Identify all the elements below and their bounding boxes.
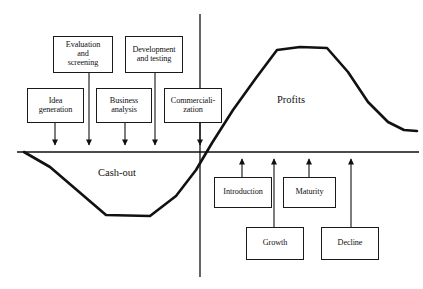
stage-box-maturity[interactable]: Maturity xyxy=(283,177,336,208)
stage-box-development-and-testing[interactable]: Development and testing xyxy=(125,36,183,73)
stage-box-label: Development and testing xyxy=(126,46,182,64)
profits-label: Profits xyxy=(277,94,305,105)
stage-box-introduction[interactable]: Introduction xyxy=(214,177,272,208)
cash-out-label: Cash-out xyxy=(98,167,136,178)
stage-box-label: Introduction xyxy=(215,188,271,197)
stage-box-label: Idea generation xyxy=(28,97,83,115)
diagram-canvas: Cash-out Profits Evaluation and screenin… xyxy=(0,0,423,289)
stage-box-label: Commerciali- zation xyxy=(165,97,221,115)
stage-box-idea-generation[interactable]: Idea generation xyxy=(27,88,84,123)
stage-box-label: Business analysis xyxy=(97,97,151,115)
stage-box-evaluation-and-screening[interactable]: Evaluation and screening xyxy=(53,36,113,73)
stage-box-label: Evaluation and screening xyxy=(54,41,112,68)
stage-box-growth[interactable]: Growth xyxy=(246,227,304,260)
stage-box-commercialization[interactable]: Commerciali- zation xyxy=(164,88,222,123)
stage-box-label: Decline xyxy=(322,239,378,248)
stage-box-business-analysis[interactable]: Business analysis xyxy=(96,88,152,123)
stage-box-decline[interactable]: Decline xyxy=(321,227,379,260)
stage-box-label: Maturity xyxy=(284,188,335,197)
stage-box-label: Growth xyxy=(247,239,303,248)
